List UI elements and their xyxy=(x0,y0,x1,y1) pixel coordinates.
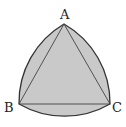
vertex-label-c: C xyxy=(112,100,122,115)
reuleaux-diagram: A B C xyxy=(0,0,126,127)
vertex-label-b: B xyxy=(4,100,14,115)
reuleaux-shape xyxy=(19,24,110,116)
vertex-label-a: A xyxy=(59,7,70,22)
